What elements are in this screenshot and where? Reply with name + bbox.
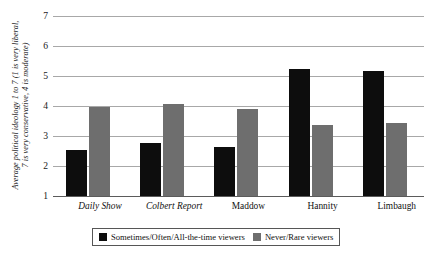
bar bbox=[363, 71, 384, 196]
bar bbox=[214, 147, 235, 196]
bar-group bbox=[201, 16, 275, 196]
x-tick-label: Colbert Report bbox=[146, 201, 203, 211]
bar bbox=[312, 125, 333, 196]
legend-item: Never/Rare viewers bbox=[253, 232, 333, 242]
bar bbox=[289, 69, 310, 197]
y-tick-label-6: 6 bbox=[43, 41, 48, 51]
bar-group bbox=[350, 16, 424, 196]
bar bbox=[66, 150, 87, 197]
y-axis-title-line-2: 7 is very conservative, 4 is moderate) bbox=[21, 43, 30, 168]
bar bbox=[237, 109, 258, 196]
y-tick-label-7: 7 bbox=[43, 11, 48, 21]
legend-label: Sometimes/Often/All-the-time viewers bbox=[111, 232, 245, 242]
x-tick-label: Hannity bbox=[307, 201, 337, 211]
y-tick-label-3: 3 bbox=[43, 131, 48, 141]
y-axis-title: Average political ideology 1 to 7 (1 is … bbox=[0, 0, 40, 210]
bar bbox=[386, 123, 407, 196]
x-tick-label: Daily Show bbox=[78, 201, 122, 211]
y-tick-label-2: 2 bbox=[43, 161, 48, 171]
bar-group bbox=[276, 16, 350, 196]
chart-legend: Sometimes/Often/All-the-time viewersNeve… bbox=[92, 228, 340, 246]
bar-series-container bbox=[53, 16, 424, 196]
y-axis-title-line-1: Average political ideology 1 to 7 (1 is … bbox=[11, 21, 20, 190]
bar-group bbox=[53, 16, 127, 196]
y-tick-label-5: 5 bbox=[43, 71, 48, 81]
gridline-1: 1 bbox=[53, 196, 424, 197]
legend-swatch-icon bbox=[99, 233, 107, 241]
y-tick-label-4: 4 bbox=[43, 101, 48, 111]
legend-item: Sometimes/Often/All-the-time viewers bbox=[99, 232, 245, 242]
legend-swatch-icon bbox=[253, 233, 261, 241]
y-tick-label-1: 1 bbox=[43, 191, 48, 201]
x-tick-label: Limbaugh bbox=[378, 201, 417, 211]
bar bbox=[163, 104, 184, 196]
legend-label: Never/Rare viewers bbox=[265, 232, 333, 242]
bar bbox=[140, 143, 161, 196]
chart-figure: Average political ideology 1 to 7 (1 is … bbox=[0, 0, 429, 253]
x-tick-label: Maddow bbox=[232, 201, 265, 211]
plot-area: 7654321 bbox=[53, 16, 424, 196]
bar-group bbox=[127, 16, 201, 196]
bar bbox=[89, 107, 110, 196]
